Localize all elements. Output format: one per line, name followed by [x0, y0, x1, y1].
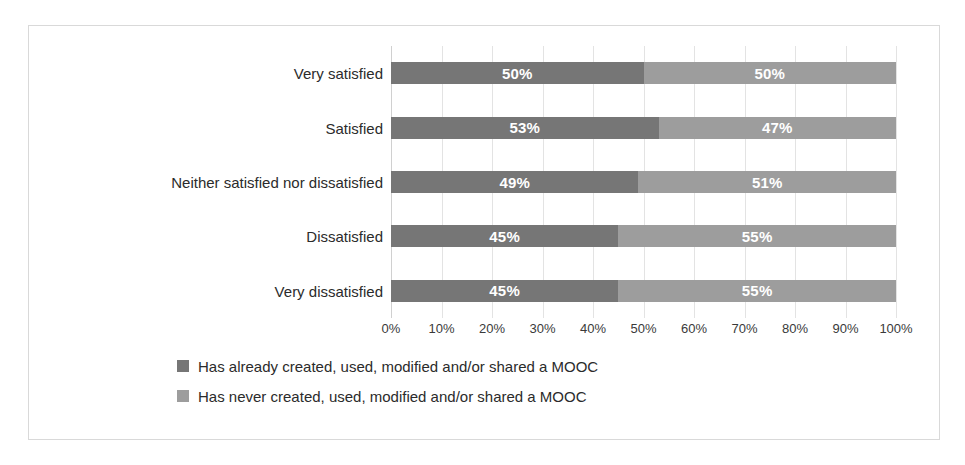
category-label: Dissatisfied: [43, 229, 383, 244]
x-axis-tick-label: 30%: [529, 322, 555, 335]
bar-data-label: 49%: [499, 175, 530, 190]
bar-segment-series-1: 53%: [391, 117, 659, 139]
bar-data-label: 45%: [489, 229, 520, 244]
bar-segment-series-2: 50%: [644, 62, 897, 84]
x-axis-tick-label: 60%: [681, 322, 707, 335]
bar-data-label: 55%: [742, 229, 773, 244]
bar-segment-series-1: 45%: [391, 225, 618, 247]
x-axis-tick-label: 50%: [630, 322, 656, 335]
bar-data-label: 50%: [754, 66, 785, 81]
chart-container: 50%50%53%47%49%51%45%55%45%55% Very sati…: [28, 25, 940, 440]
legend-label: Has never created, used, modified and/or…: [198, 389, 587, 404]
bar-data-label: 51%: [752, 175, 783, 190]
bar-row: 45%55%: [391, 280, 896, 302]
legend-swatch-icon: [177, 390, 189, 402]
bar-segment-series-2: 47%: [659, 117, 896, 139]
category-label: Very satisfied: [43, 66, 383, 81]
bar-data-label: 55%: [742, 283, 773, 298]
legend-item[interactable]: Has never created, used, modified and/or…: [177, 381, 917, 411]
x-axis-tick-label: 40%: [580, 322, 606, 335]
x-axis-tick-label: 20%: [479, 322, 505, 335]
bar-segment-series-1: 45%: [391, 280, 618, 302]
x-axis-tick-labels: 0%10%20%30%40%50%60%70%80%90%100%: [391, 318, 896, 342]
bar-data-label: 53%: [510, 120, 541, 135]
category-axis-labels: Very satisfiedSatisfiedNeither satisfied…: [37, 46, 383, 318]
bar-data-label: 50%: [502, 66, 533, 81]
legend-label: Has already created, used, modified and/…: [198, 359, 598, 374]
category-label: Satisfied: [43, 121, 383, 136]
legend-item[interactable]: Has already created, used, modified and/…: [177, 351, 917, 381]
bar-row: 45%55%: [391, 225, 896, 247]
bar-segment-series-1: 50%: [391, 62, 644, 84]
bar-segment-series-2: 51%: [638, 171, 896, 193]
category-label: Very dissatisfied: [43, 284, 383, 299]
x-axis-tick-label: 80%: [782, 322, 808, 335]
bar-data-label: 47%: [762, 120, 793, 135]
bar-data-label: 45%: [489, 283, 520, 298]
bar-row: 53%47%: [391, 117, 896, 139]
gridline-100pct: [896, 46, 897, 318]
x-axis-tick-label: 10%: [428, 322, 454, 335]
bar-row: 50%50%: [391, 62, 896, 84]
x-axis-tick-label: 0%: [382, 322, 401, 335]
bar-row: 49%51%: [391, 171, 896, 193]
chart-legend: Has already created, used, modified and/…: [177, 351, 917, 411]
bar-segment-series-2: 55%: [618, 280, 896, 302]
x-axis-tick-label: 100%: [879, 322, 912, 335]
bar-segment-series-2: 55%: [618, 225, 896, 247]
legend-swatch-icon: [177, 360, 189, 372]
plot-area: 50%50%53%47%49%51%45%55%45%55%: [391, 46, 896, 318]
x-axis-tick-label: 70%: [731, 322, 757, 335]
x-axis-tick-label: 90%: [832, 322, 858, 335]
bar-segment-series-1: 49%: [391, 171, 638, 193]
category-label: Neither satisfied nor dissatisfied: [43, 175, 383, 190]
